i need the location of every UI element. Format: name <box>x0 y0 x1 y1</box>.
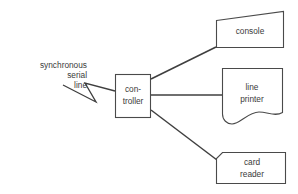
node-controller[interactable]: con- troller <box>116 75 151 118</box>
card-reader-label-line2: reader <box>240 169 264 179</box>
block-diagram: con- troller console line printer card r… <box>0 0 298 194</box>
controller-label-line2: troller <box>123 96 144 106</box>
zigzag-arrow-icon <box>63 83 115 102</box>
annotation-line2: serial <box>67 70 87 80</box>
line-printer-label-line1: line <box>246 82 259 92</box>
connector-group <box>151 47 222 160</box>
line-printer-label-line2: printer <box>240 94 264 104</box>
card-reader-label-line1: card <box>244 157 261 167</box>
connector-controller-to-card-reader <box>151 110 217 160</box>
node-line-printer[interactable]: line printer <box>223 69 283 125</box>
connector-controller-to-console <box>151 47 216 79</box>
node-card-reader[interactable]: card reader <box>217 153 286 184</box>
annotation-line1: synchronous <box>40 60 87 70</box>
controller-label-line1: con- <box>125 84 141 94</box>
node-console[interactable]: console <box>217 12 284 48</box>
annotation-line3: line <box>74 80 87 90</box>
diagram-canvas: con- troller console line printer card r… <box>0 0 298 194</box>
console-label: console <box>236 26 265 36</box>
